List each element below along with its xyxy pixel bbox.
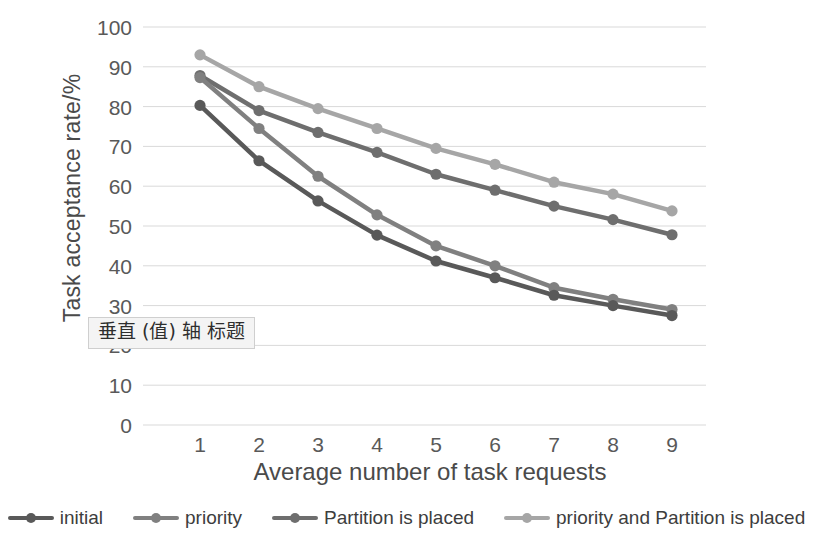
x-tick-label: 9 [666,433,678,456]
data-point-marker[interactable] [312,103,323,114]
legend-swatch-icon [504,511,550,525]
y-tick-label: 90 [109,56,132,79]
legend-swatch-icon [8,511,54,525]
y-tick-label: 10 [109,374,132,397]
data-point-marker[interactable] [430,240,441,251]
legend-label: initial [60,507,103,529]
x-tick-label: 3 [312,433,324,456]
legend-swatch-icon [272,511,318,525]
data-point-marker[interactable] [253,155,264,166]
legend-item[interactable]: priority [133,507,242,529]
data-point-marker[interactable] [371,209,382,220]
gridlines-group [143,27,706,425]
y-tick-label: 60 [109,175,132,198]
data-point-marker[interactable] [194,49,205,60]
x-tick-label: 7 [548,433,560,456]
data-point-marker[interactable] [312,195,323,206]
data-point-marker[interactable] [548,201,559,212]
data-point-marker[interactable] [194,100,205,111]
data-point-marker[interactable] [253,81,264,92]
y-axis-title: Task acceptance rate/% [54,83,90,313]
data-point-marker[interactable] [430,143,441,154]
x-axis-title-text: Average number of task requests [253,458,606,485]
x-axis-title: Average number of task requests [150,458,710,486]
data-point-marker[interactable] [371,147,382,158]
data-point-marker[interactable] [430,255,441,266]
data-point-marker[interactable] [312,127,323,138]
data-point-marker[interactable] [666,205,677,216]
legend-swatch-icon [133,511,179,525]
data-point-marker[interactable] [371,123,382,134]
data-point-marker[interactable] [253,105,264,116]
y-tick-label: 50 [109,215,132,238]
x-tick-label: 6 [489,433,501,456]
x-tick-label: 8 [607,433,619,456]
x-tick-label: 5 [430,433,442,456]
data-point-marker[interactable] [489,159,500,170]
y-tick-label: 40 [109,255,132,278]
data-point-marker[interactable] [666,310,677,321]
data-point-marker[interactable] [666,229,677,240]
data-point-marker[interactable] [312,171,323,182]
chart-container: 0102030405060708090100 123456789 Task ac… [0,0,813,549]
legend-item[interactable]: initial [8,507,103,529]
vertical-axis-title-placeholder[interactable]: 垂直 (值) 轴 标题 [88,317,255,349]
x-tick-label: 1 [194,433,206,456]
series-lines-group [200,55,672,316]
legend-label: priority [185,507,242,529]
x-tick-label: 4 [371,433,383,456]
data-point-marker[interactable] [607,214,618,225]
data-point-marker[interactable] [607,189,618,200]
y-tick-label: 100 [97,16,132,39]
x-axis-tick-labels: 123456789 [194,433,678,456]
series-line[interactable] [200,55,672,211]
legend-item[interactable]: Partition is placed [272,507,474,529]
chart-legend: initialpriorityPartition is placedpriori… [0,503,813,533]
data-point-marker[interactable] [253,123,264,134]
y-tick-label: 70 [109,135,132,158]
data-point-marker[interactable] [489,260,500,271]
y-tick-label: 0 [120,414,132,437]
y-axis-tick-labels: 0102030405060708090100 [97,16,132,437]
data-point-marker[interactable] [489,185,500,196]
y-tick-label: 80 [109,96,132,119]
data-point-marker[interactable] [194,72,205,83]
y-axis-title-text: Task acceptance rate/% [59,74,86,323]
legend-label: Partition is placed [324,507,474,529]
vertical-axis-title-text: 垂直 (值) 轴 标题 [98,320,245,342]
series-line[interactable] [200,76,672,235]
x-tick-label: 2 [253,433,265,456]
y-tick-label: 30 [109,295,132,318]
legend-item[interactable]: priority and Partition is placed [504,507,805,529]
data-point-marker[interactable] [430,169,441,180]
legend-label: priority and Partition is placed [556,507,805,529]
data-point-marker[interactable] [489,272,500,283]
data-point-marker[interactable] [548,177,559,188]
data-point-marker[interactable] [607,300,618,311]
data-point-marker[interactable] [548,290,559,301]
data-point-marker[interactable] [371,230,382,241]
